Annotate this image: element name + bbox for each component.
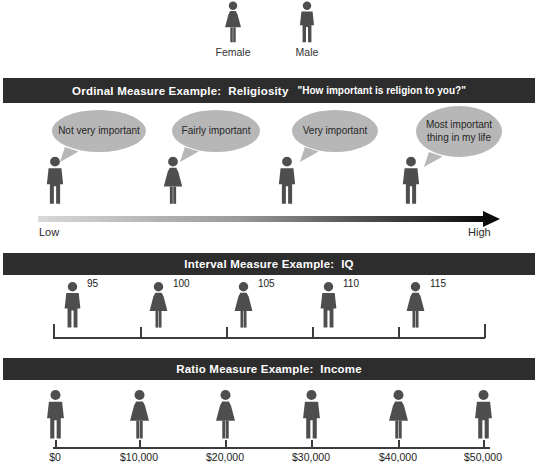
income-axis-line — [53, 447, 490, 449]
axis-label-high: High — [468, 226, 491, 238]
interval-person-male-icon — [57, 281, 88, 330]
ratio-person-female-icon — [209, 389, 242, 441]
ordinal-person-male-icon — [271, 156, 303, 206]
income-axis-tick — [225, 440, 227, 448]
ordinal-person-male-icon — [395, 156, 427, 206]
interval-header-title: Interval Measure Example: IQ — [184, 258, 353, 270]
speech-bubble-text: Most important thing in my life — [422, 119, 496, 144]
income-axis-tick — [55, 440, 57, 448]
ordinal-header-band: Ordinal Measure Example: Religiosity "Ho… — [3, 78, 535, 103]
speech-bubble-tail — [424, 152, 446, 167]
ordinal-header-quote: "How important is religion to you?" — [298, 85, 466, 96]
iq-value-label: 110 — [343, 278, 359, 289]
axis-label-low: Low — [39, 226, 59, 238]
ratio-header-title: Ratio Measure Example: Income — [176, 363, 362, 375]
income-axis-tick — [398, 440, 400, 448]
arrow-head-icon — [483, 211, 500, 227]
income-axis-tick — [311, 440, 313, 448]
iq-value-label: 95 — [87, 278, 98, 289]
ordinal-person-female-icon — [157, 156, 189, 206]
iq-value-label: 115 — [430, 278, 446, 289]
speech-bubble-text: Fairly important — [182, 125, 251, 138]
ratio-person-female-icon — [382, 389, 415, 441]
legend-label-female: Female — [215, 46, 250, 58]
ratio-header-band: Ratio Measure Example: Income — [3, 358, 535, 380]
interval-ruler-tick — [140, 327, 142, 338]
interval-ruler-tick — [484, 324, 486, 338]
speech-bubble: Fairly important — [172, 110, 260, 152]
income-value-label: $0 — [49, 451, 61, 463]
income-value-label: $50,000 — [464, 451, 502, 463]
ratio-person-male-icon — [467, 389, 500, 441]
iq-value-label: 105 — [258, 278, 275, 289]
ratio-person-female-icon — [123, 389, 156, 441]
income-value-label: $40,000 — [379, 451, 417, 463]
interval-ruler-tick — [226, 327, 228, 338]
interval-person-female-icon — [228, 281, 259, 330]
ratio-person-male-icon — [39, 389, 72, 441]
interval-person-male-icon — [313, 281, 344, 330]
low-high-arrow — [38, 216, 484, 222]
male-icon — [293, 1, 321, 44]
ordinal-header-title: Ordinal Measure Example: Religiosity — [72, 85, 288, 97]
income-value-label: $20,000 — [206, 451, 244, 463]
speech-bubble: Very important — [292, 110, 378, 152]
measurement-levels-diagram: Female Male Ordinal Measure Example: Rel… — [0, 0, 538, 475]
income-axis-tick — [139, 440, 141, 448]
income-value-label: $30,000 — [292, 451, 330, 463]
interval-person-female-icon — [400, 281, 431, 330]
ratio-person-male-icon — [295, 389, 328, 441]
iq-value-label: 100 — [173, 278, 190, 289]
ordinal-person-male-icon — [39, 156, 71, 206]
female-icon — [219, 1, 247, 44]
interval-ruler-tick — [53, 324, 55, 338]
speech-bubble: Most important thing in my life — [416, 106, 502, 157]
interval-header-band: Interval Measure Example: IQ — [3, 253, 535, 275]
legend-label-male: Male — [296, 46, 319, 58]
speech-bubble-text: Very important — [303, 125, 367, 138]
legend-item-female: Female — [203, 1, 263, 58]
income-axis-tick — [483, 440, 485, 448]
speech-bubble: Not very important — [52, 110, 146, 152]
speech-bubble-text: Not very important — [58, 125, 140, 138]
legend-item-male: Male — [277, 1, 337, 58]
income-value-label: $10,000 — [120, 451, 158, 463]
interval-ruler-tick — [398, 327, 400, 338]
interval-ruler-line — [53, 337, 485, 339]
interval-person-female-icon — [143, 281, 174, 330]
speech-bubble-tail — [300, 147, 322, 162]
interval-ruler-tick — [312, 327, 314, 338]
